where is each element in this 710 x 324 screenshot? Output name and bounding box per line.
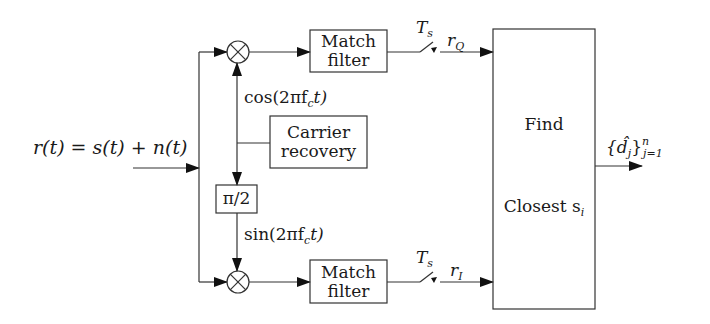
cos-signal-label: cos(2πfct) xyxy=(244,89,327,109)
sampler-bottom-label: Ts xyxy=(416,249,433,269)
carrier-recovery: Carrier recovery xyxy=(270,123,367,161)
carrier-recovery-line2: recovery xyxy=(270,142,367,161)
phase-shift-label: π/2 xyxy=(216,189,257,208)
decision-line2: Closest si xyxy=(493,198,595,218)
match-filter-top-line2: filter xyxy=(310,51,387,70)
match-filter-top: Match filter xyxy=(310,32,387,70)
ri-label: rI xyxy=(450,262,463,282)
match-filter-bottom-line1: Match xyxy=(310,263,387,282)
rq-label: rQ xyxy=(447,32,464,52)
decision-box xyxy=(493,29,595,309)
input-signal-label: r(t) = s(t) + n(t) xyxy=(33,138,187,157)
sin-signal-label: sin(2πfct) xyxy=(244,226,324,246)
match-filter-top-line1: Match xyxy=(310,32,387,51)
match-filter-bottom: Match filter xyxy=(310,263,387,301)
carrier-recovery-line1: Carrier xyxy=(270,123,367,142)
output-signal-label: {d̂j}nj=1 xyxy=(606,136,663,159)
match-filter-bottom-line2: filter xyxy=(310,282,387,301)
decision-line1: Find xyxy=(493,116,595,133)
sampler-top-label: Ts xyxy=(416,19,433,39)
